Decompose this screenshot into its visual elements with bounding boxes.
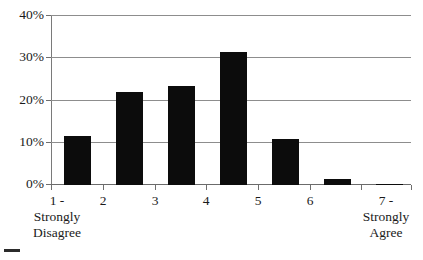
plot-area	[51, 15, 411, 185]
bar-category-5	[272, 139, 299, 185]
x-axis-label-5-line1: 5	[255, 193, 262, 208]
x-axis-label-2-line1: 2	[100, 193, 107, 208]
bar-category-3	[168, 86, 195, 185]
x-axis-tick-5	[310, 185, 311, 190]
x-axis-tick-6	[361, 185, 362, 190]
bar-category-6	[324, 179, 351, 185]
y-axis-label-0: 0%	[0, 177, 44, 191]
x-axis-label-category-1: 1 - Strongly Disagree	[27, 193, 87, 241]
x-axis-label-7-line1: 7 -	[379, 193, 394, 208]
y-axis-label-30: 30%	[0, 50, 44, 64]
x-axis-tick-2	[155, 185, 156, 190]
x-axis-label-6-line1: 6	[307, 193, 314, 208]
gridline-40	[51, 15, 411, 16]
bar-category-2	[116, 92, 143, 186]
x-axis-label-category-4: 4	[182, 193, 230, 209]
x-axis-tick-0	[51, 185, 52, 190]
x-axis-tick-1	[103, 185, 104, 190]
x-axis-label-category-2: 2	[79, 193, 127, 209]
bar-chart: 40% 30% 20% 10% 0% 1 - Strongly Disagree	[0, 0, 423, 260]
page-artifact-mark	[4, 249, 20, 252]
x-axis-label-1-line1: 1 -	[50, 193, 65, 208]
x-axis-label-1-line3: Disagree	[27, 225, 87, 241]
x-axis-label-category-6: 6	[286, 193, 334, 209]
x-axis-label-category-7: 7 - Strongly Agree	[356, 193, 416, 241]
x-axis-label-4-line1: 4	[203, 193, 210, 208]
x-axis-label-1-line2: Strongly	[27, 209, 87, 225]
bar-category-7	[376, 184, 403, 185]
x-axis-tick-7	[411, 185, 412, 190]
x-axis-label-7-line3: Agree	[356, 225, 416, 241]
x-axis-label-3-line1: 3	[152, 193, 159, 208]
y-axis-label-40: 40%	[0, 8, 44, 22]
x-axis-label-7-line2: Strongly	[356, 209, 416, 225]
y-axis-label-10: 10%	[0, 135, 44, 149]
bar-category-1	[64, 136, 91, 185]
y-axis-label-20: 20%	[0, 93, 44, 107]
x-axis-tick-4	[258, 185, 259, 190]
x-axis-label-category-3: 3	[131, 193, 179, 209]
x-axis-label-category-5: 5	[234, 193, 282, 209]
bar-category-4	[220, 52, 247, 185]
x-axis-tick-3	[206, 185, 207, 190]
